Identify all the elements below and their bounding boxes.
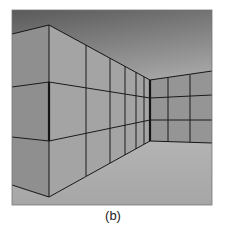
left-wall	[12, 25, 49, 197]
figure-caption: (b)	[0, 208, 226, 223]
back-wall	[150, 71, 212, 143]
corridor-rendering	[0, 0, 226, 229]
